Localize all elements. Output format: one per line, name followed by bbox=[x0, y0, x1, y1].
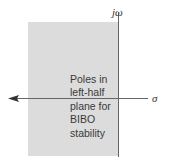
annotation-line: plane for bbox=[70, 100, 111, 112]
annotation-line: Poles in bbox=[70, 73, 108, 85]
annotation-line: BIBO bbox=[70, 113, 95, 125]
real-axis-label: σ bbox=[152, 92, 158, 104]
annotation-line: stability bbox=[70, 127, 106, 139]
s-plane-diagram: jω σ Poles in left-half plane for BIBO s… bbox=[0, 0, 169, 163]
imaginary-axis-label: jω bbox=[110, 6, 123, 18]
annotation-line: left-half bbox=[70, 86, 105, 98]
